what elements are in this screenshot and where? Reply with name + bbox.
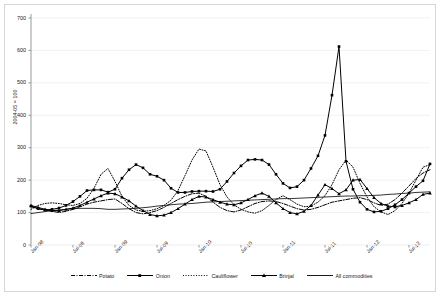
data-point-marker	[310, 167, 313, 170]
data-point-marker	[219, 188, 222, 191]
data-point-marker	[317, 155, 320, 158]
legend-item-brinjal[interactable]: Brinjal	[251, 272, 294, 279]
data-point-marker	[198, 190, 201, 193]
plot-area	[0, 0, 443, 298]
data-point-marker	[86, 189, 89, 192]
data-point-marker	[226, 180, 229, 183]
data-point-marker	[359, 201, 362, 204]
data-point-marker	[135, 163, 138, 166]
data-point-marker	[114, 188, 117, 191]
data-point-marker	[289, 187, 292, 190]
data-point-marker	[72, 200, 75, 203]
data-point-marker	[191, 190, 194, 193]
data-point-marker	[401, 198, 404, 201]
data-point-marker	[163, 179, 166, 182]
data-point-marker	[121, 177, 124, 180]
data-point-marker	[212, 190, 215, 193]
data-point-marker	[324, 134, 327, 137]
data-point-marker	[415, 185, 418, 188]
data-point-marker	[296, 185, 299, 188]
legend-label: Cauliflower	[211, 273, 237, 279]
data-point-marker	[260, 191, 264, 194]
legend-item-all-commodities[interactable]: All commodities	[307, 272, 373, 279]
data-point-marker	[233, 172, 236, 175]
data-point-marker	[184, 191, 187, 194]
legend-swatch-cauliflower	[183, 272, 209, 279]
data-point-marker	[366, 208, 369, 211]
data-point-marker	[254, 158, 257, 161]
legend-swatch-onion	[127, 272, 153, 279]
legend-item-onion[interactable]: Onion	[127, 272, 170, 279]
data-point-marker	[275, 173, 278, 176]
legend-label: Onion	[156, 273, 170, 279]
series-line-potato	[31, 170, 430, 214]
data-point-marker	[247, 159, 250, 162]
data-point-marker	[352, 188, 355, 191]
data-point-marker	[422, 179, 425, 182]
data-point-marker	[323, 183, 327, 186]
data-point-marker	[205, 190, 208, 193]
data-point-marker	[282, 182, 285, 185]
data-point-marker	[170, 187, 173, 190]
legend-label: Potato	[99, 273, 114, 279]
data-point-marker	[303, 179, 306, 182]
data-point-marker	[373, 211, 376, 214]
data-point-marker	[240, 165, 243, 168]
data-point-marker	[149, 173, 152, 176]
data-point-marker	[268, 163, 271, 166]
data-point-marker	[142, 167, 145, 170]
legend-label: All commodities	[335, 273, 372, 279]
legend-swatch-potato	[71, 272, 97, 279]
data-point-marker	[156, 175, 159, 178]
legend-swatch-all-commodities	[307, 272, 333, 279]
legend-swatch-brinjal	[251, 272, 277, 279]
data-point-marker	[261, 159, 264, 162]
legend-item-cauliflower[interactable]: Cauliflower	[183, 272, 238, 279]
chart-legend: PotatoOnionCauliflowerBrinjalAll commodi…	[0, 272, 443, 279]
series-line-onion	[31, 47, 430, 212]
data-point-marker	[100, 189, 103, 192]
data-point-marker	[79, 195, 82, 198]
data-point-marker	[331, 94, 334, 97]
data-point-marker	[128, 168, 131, 171]
legend-item-potato[interactable]: Potato	[71, 272, 115, 279]
legend-label: Brinjal	[279, 273, 294, 279]
chart-container: 2004-05 = 100 0100200300400500600700 Jan…	[0, 0, 443, 298]
data-point-marker	[338, 45, 341, 48]
data-point-marker	[387, 207, 390, 210]
